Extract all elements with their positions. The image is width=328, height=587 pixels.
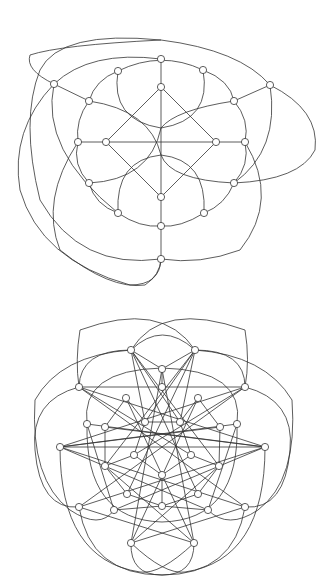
graph-node <box>50 80 57 87</box>
graph-node <box>230 179 237 186</box>
graph-node <box>102 138 109 145</box>
graph-node <box>191 346 198 353</box>
graph-edge <box>131 543 194 575</box>
graph-node <box>215 462 222 469</box>
graph-node <box>141 418 148 425</box>
graph-node <box>187 451 194 458</box>
graph-edge <box>105 466 194 543</box>
graph-node <box>158 471 165 478</box>
graph-edge <box>127 494 162 506</box>
graph-node <box>241 503 248 510</box>
graph-node <box>241 383 248 390</box>
graph-edge <box>131 466 219 543</box>
graph-edge <box>60 447 245 507</box>
graph-node <box>157 83 164 90</box>
graph-node <box>85 179 92 186</box>
graph-edge <box>77 101 89 142</box>
graph-edge <box>162 350 195 369</box>
graph-edge <box>161 142 261 261</box>
top-graph <box>18 38 315 286</box>
graph-node <box>114 67 121 74</box>
graph-edge <box>30 38 161 260</box>
graph-node <box>158 365 165 372</box>
graph-edge <box>118 213 161 226</box>
graph-edge <box>79 507 245 575</box>
graph-node <box>241 138 248 145</box>
graph-node <box>75 503 82 510</box>
graph-edge <box>161 213 204 226</box>
graph-node <box>158 502 165 509</box>
graph-node <box>74 138 81 145</box>
graph-node <box>204 506 211 513</box>
graph-node <box>157 255 164 262</box>
graph-node <box>266 81 273 88</box>
graph-node <box>230 97 237 104</box>
graph-node <box>56 443 63 450</box>
graph-edge <box>234 85 272 183</box>
graph-node <box>176 418 183 425</box>
graph-node <box>127 346 134 353</box>
graph-node <box>261 443 268 450</box>
graph-node <box>85 97 92 104</box>
graph-edge <box>52 84 118 213</box>
graph-edge <box>53 142 161 286</box>
graph-node <box>190 539 197 546</box>
graph-edge <box>204 183 234 213</box>
graph-node <box>83 420 90 427</box>
graph-node <box>157 55 164 62</box>
graph-edge <box>234 101 246 142</box>
graph-edge <box>203 70 234 101</box>
graph-edge <box>79 447 265 507</box>
graph-edge <box>234 142 246 183</box>
graph-node <box>157 193 164 200</box>
graph-node <box>101 423 108 430</box>
graph-node <box>194 490 201 497</box>
graph-edge <box>105 398 126 427</box>
graph-edge <box>134 387 245 455</box>
graph-edge <box>106 87 161 142</box>
graph-node <box>194 394 201 401</box>
graph-edge <box>161 142 216 197</box>
graph-edge <box>54 84 89 101</box>
graph-node <box>130 451 137 458</box>
graph-node <box>233 420 240 427</box>
graph-edge <box>89 101 161 155</box>
graph-node <box>123 490 130 497</box>
graph-edge <box>162 494 198 506</box>
graph-edge <box>54 57 161 84</box>
graph-edge <box>161 155 234 183</box>
graph-node <box>158 383 165 390</box>
graph-edge <box>219 427 220 466</box>
graph-edge <box>89 71 118 101</box>
graph-node <box>212 138 219 145</box>
graph-edge <box>79 387 191 455</box>
graph-edge <box>105 466 127 494</box>
graph-edge <box>29 40 270 85</box>
graph-node <box>114 209 121 216</box>
graph-node <box>127 539 134 546</box>
graph-edge <box>198 398 220 427</box>
graph-edge <box>234 85 270 101</box>
graph-node <box>75 383 82 390</box>
graph-diagram-canvas <box>0 0 328 587</box>
graph-node <box>200 209 207 216</box>
graph-node <box>199 66 206 73</box>
graph-node <box>110 506 117 513</box>
graph-edge <box>161 87 216 142</box>
graph-node <box>216 423 223 430</box>
bottom-graph <box>34 319 292 575</box>
graph-edge <box>89 183 118 213</box>
graph-node <box>122 394 129 401</box>
graph-node <box>101 462 108 469</box>
graph-edge <box>76 142 89 183</box>
graph-node <box>157 222 164 229</box>
